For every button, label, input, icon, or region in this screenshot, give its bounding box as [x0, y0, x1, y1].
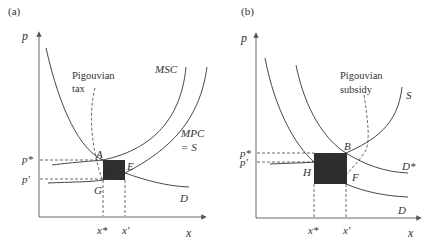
panel-b-label: (b) [241, 5, 254, 18]
point-a-label: A [95, 148, 103, 160]
x-prime-tick: x' [342, 224, 351, 236]
p-prime-tick: p' [239, 156, 249, 168]
pigouvian-diagram: (a) p x Pigouvian tax MSC MPC = S D A E … [0, 0, 437, 246]
point-h-label: H [302, 166, 312, 178]
demand-curve-d-lower [346, 184, 408, 197]
panel-a-tax: (a) p x Pigouvian tax MSC MPC = S D A E … [8, 5, 207, 240]
pigouvian-tax-label-2: tax [72, 83, 86, 94]
demand-label: D [179, 192, 188, 204]
point-b-label: B [344, 140, 351, 152]
supply-label: S [406, 89, 412, 101]
x-axis-label: x [407, 226, 414, 240]
demand-curve-d-upper [265, 58, 314, 162]
pigouvian-subsidy-label-1: Pigouvian [340, 70, 383, 81]
msc-curve [52, 67, 186, 165]
pigouvian-subsidy-pointer [347, 95, 368, 174]
x-star-tick: x* [307, 224, 319, 236]
p-star-tick: p* [21, 153, 34, 165]
pigouvian-subsidy-label-2: subsidy [340, 84, 373, 95]
point-e-label: E [126, 160, 134, 172]
point-g-label: G [94, 184, 102, 196]
x-star-tick: x* [96, 224, 108, 236]
x-prime-tick: x' [121, 224, 130, 236]
point-f-label: F [351, 171, 359, 183]
panel-b-subsidy: (b) p x Pigouvian subsidy S D* D B F H p… [239, 5, 419, 240]
pigouvian-tax-pointer [91, 88, 102, 179]
msc-label: MSC [154, 63, 178, 75]
mpc-equals-s-label: = S [181, 141, 197, 153]
pigouvian-tax-label-1: Pigouvian [72, 70, 115, 81]
y-axis-label: p [240, 31, 247, 45]
mpc-label: MPC [180, 127, 205, 139]
p-prime-tick: p' [21, 173, 31, 185]
y-axis-label: p [21, 29, 28, 43]
demand-label: D [397, 204, 406, 216]
x-axis-label: x [185, 226, 192, 240]
panel-a-label: (a) [8, 5, 21, 18]
demand-star-label: D* [401, 160, 416, 172]
supply-curve [270, 87, 402, 164]
